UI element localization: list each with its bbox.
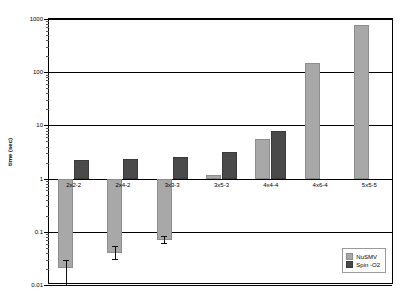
- category-label: 4x6-4: [313, 182, 328, 189]
- category-label: 4x4-4: [263, 182, 278, 189]
- category-label: 2x2-2: [66, 182, 81, 189]
- bar-spin: [271, 131, 286, 179]
- legend-label: Spin -O2: [356, 262, 380, 268]
- error-bar-cap: [161, 243, 167, 244]
- category-label: 3x5-3: [214, 182, 229, 189]
- chart-figure: time (sec) 10001001010.10.01 2x2-22x4-23…: [0, 0, 412, 304]
- bar-spin: [74, 160, 89, 179]
- bar-group: [345, 19, 394, 283]
- category-label: 2x4-2: [115, 182, 130, 189]
- bar-group: [148, 19, 197, 283]
- plot-area: 10001001010.10.01 2x2-22x4-23x3-33x5-34x…: [48, 18, 393, 284]
- bar-group: [246, 19, 295, 283]
- y-axis-title: time (sec): [7, 138, 13, 166]
- y-axis-tick-label: 10: [36, 122, 43, 128]
- bar-spin: [173, 157, 188, 179]
- bar-nusmv: [107, 179, 122, 253]
- y-axis-tick-label: 0.1: [35, 229, 43, 235]
- bar-nusmv: [305, 63, 320, 179]
- y-axis-tick-label: 0.01: [31, 282, 43, 288]
- error-bar-cap: [161, 236, 167, 237]
- y-axis-tick-major: [44, 285, 49, 286]
- category-label: 5x5-5: [362, 182, 377, 189]
- bar-nusmv: [255, 139, 270, 178]
- bar-group: [295, 19, 344, 283]
- legend-item: NuSMV: [346, 253, 380, 260]
- y-axis-tick-label: 1: [40, 176, 43, 182]
- legend-label: NuSMV: [356, 254, 377, 260]
- bar-group: [98, 19, 147, 283]
- y-axis-tick-label: 100: [33, 69, 43, 75]
- category-label: 3x3-3: [165, 182, 180, 189]
- legend-swatch-spin: [346, 261, 353, 268]
- error-bar-cap: [63, 285, 69, 286]
- error-bar: [115, 246, 116, 258]
- bar-nusmv: [58, 179, 73, 268]
- bar-nusmv: [354, 25, 369, 179]
- error-bar-cap: [112, 246, 118, 247]
- bar-group: [49, 19, 98, 283]
- error-bar-cap: [63, 260, 69, 261]
- chart-legend: NuSMVSpin -O2: [342, 248, 386, 273]
- y-axis-tick-label: 1000: [30, 16, 43, 22]
- error-bar: [66, 260, 67, 285]
- gridline: [49, 285, 392, 286]
- bar-nusmv: [206, 175, 221, 178]
- legend-swatch-nusmv: [346, 253, 353, 260]
- legend-item: Spin -O2: [346, 261, 380, 268]
- error-bar-cap: [112, 259, 118, 260]
- bar-group: [197, 19, 246, 283]
- bar-spin: [222, 152, 237, 178]
- bar-spin: [123, 159, 138, 179]
